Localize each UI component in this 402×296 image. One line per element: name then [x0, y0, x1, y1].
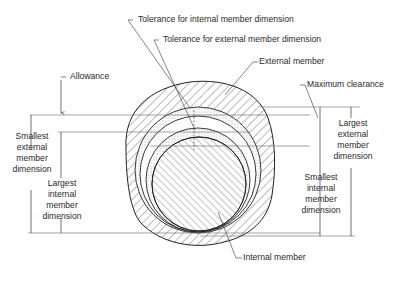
callout-tolerance-internal: Tolerance for internal member dimension [138, 14, 294, 25]
callout-allowance: Allowance [70, 71, 109, 82]
callout-external-member: External member [259, 56, 324, 67]
callout-internal-member: Internal member [243, 252, 306, 263]
label-smallest-external-dimension: Smallest external member dimension [10, 131, 54, 175]
label-largest-external-dimension: Largest external member dimension [328, 118, 378, 162]
tolerance-diagram: Tolerance for internal member dimension … [0, 0, 402, 296]
callout-tolerance-external: Tolerance for external member dimension [163, 34, 321, 45]
callout-maximum-clearance: Maximum clearance [307, 79, 384, 90]
label-smallest-internal-dimension: Smallest internal member dimension [298, 172, 344, 216]
internal-member [146, 128, 250, 232]
label-largest-internal-dimension: Largest internal member dimension [40, 178, 84, 222]
